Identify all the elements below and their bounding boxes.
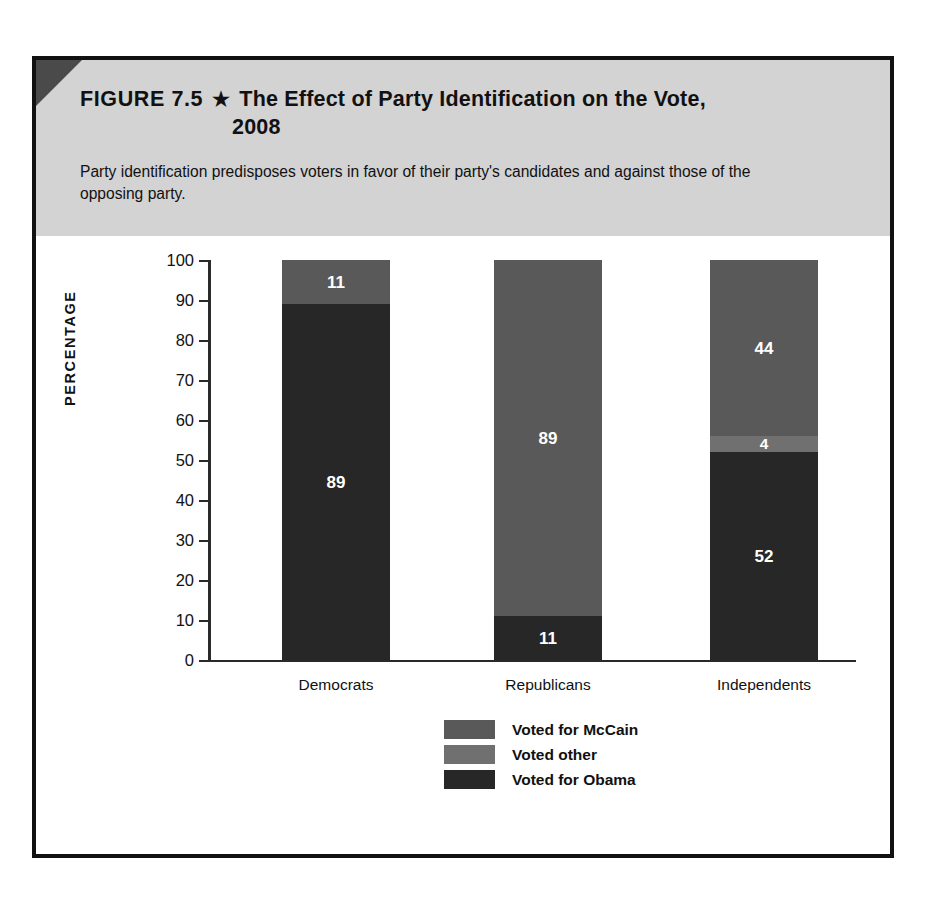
bar-segment[interactable]: 44 — [710, 260, 818, 436]
x-axis-category-label: Republicans — [505, 676, 590, 694]
x-axis-category-label: Democrats — [299, 676, 374, 694]
y-axis-tick-label: 60 — [176, 411, 194, 430]
chart-plot-region: PERCENTAGE 0102030405060708090100 1189De… — [36, 236, 890, 854]
y-axis-tick — [199, 500, 210, 502]
figure-title-line1: The Effect of Party Identification on th… — [239, 87, 706, 111]
stacked-bar[interactable]: 44452 — [710, 260, 818, 660]
legend-swatch — [444, 720, 495, 739]
legend-swatch — [444, 745, 495, 764]
figure-number: FIGURE 7.5 — [80, 87, 203, 111]
legend-item[interactable]: Voted for McCain — [444, 720, 638, 739]
figure-title-line2: 2008 — [232, 114, 850, 142]
legend-label: Voted for McCain — [512, 721, 638, 739]
bar-segment[interactable]: 4 — [710, 436, 818, 452]
y-axis-tick-label: 0 — [185, 651, 194, 670]
bar-segment-value: 11 — [327, 274, 345, 291]
y-axis-tick — [199, 460, 210, 462]
bar-segment-value: 89 — [539, 430, 558, 447]
legend-label: Voted for Obama — [512, 771, 636, 789]
bar-segment-value: 4 — [760, 436, 769, 452]
y-axis-tick-label: 40 — [176, 491, 194, 510]
y-axis-tick — [199, 620, 210, 622]
y-axis-tick — [199, 660, 210, 662]
y-axis-title: PERCENTAGE — [62, 290, 78, 406]
bar-segment-value: 11 — [539, 630, 557, 647]
stacked-bar[interactable]: 8911 — [494, 260, 602, 660]
y-axis-tick — [199, 380, 210, 382]
legend-item[interactable]: Voted for Obama — [444, 770, 638, 789]
legend-label: Voted other — [512, 746, 597, 764]
bar-segment[interactable]: 52 — [710, 452, 818, 660]
y-axis-tick-label: 90 — [176, 291, 194, 310]
figure-frame: FIGURE 7.5★The Effect of Party Identific… — [32, 56, 894, 858]
y-axis-tick — [199, 260, 210, 262]
star-icon: ★ — [203, 86, 239, 112]
page-title: FIGURE 7.5★The Effect of Party Identific… — [80, 86, 850, 142]
bar-segment[interactable]: 11 — [494, 616, 602, 660]
y-axis-tick-label: 10 — [176, 611, 194, 630]
y-axis-tick — [199, 300, 210, 302]
y-axis-tick-label: 70 — [176, 371, 194, 390]
bar-segment-value: 52 — [755, 548, 774, 565]
chart-axes: 0102030405060708090100 1189Democrats8911… — [208, 260, 856, 660]
corner-fold-icon — [36, 60, 82, 106]
bar-segment[interactable]: 11 — [282, 260, 390, 304]
legend-item[interactable]: Voted other — [444, 745, 638, 764]
y-axis-tick — [199, 340, 210, 342]
bar-group[interactable]: 44452Independents — [710, 260, 818, 660]
y-axis-tick-label: 50 — [176, 451, 194, 470]
y-axis-tick-label: 80 — [176, 331, 194, 350]
y-axis-tick-label: 100 — [166, 251, 194, 270]
y-axis-tick-label: 20 — [176, 571, 194, 590]
y-axis-tick — [199, 580, 210, 582]
bar-group[interactable]: 8911Republicans — [494, 260, 602, 660]
bar-segment-value: 44 — [755, 340, 774, 357]
legend-swatch — [444, 770, 495, 789]
bar-segment[interactable]: 89 — [282, 304, 390, 660]
stacked-bar[interactable]: 1189 — [282, 260, 390, 660]
figure-header: FIGURE 7.5★The Effect of Party Identific… — [36, 60, 890, 236]
bar-segment[interactable]: 89 — [494, 260, 602, 616]
y-axis-tick-label: 30 — [176, 531, 194, 550]
x-axis-category-label: Independents — [717, 676, 811, 694]
figure-subtitle: Party identification predisposes voters … — [80, 161, 780, 205]
y-axis-tick — [199, 540, 210, 542]
bar-group[interactable]: 1189Democrats — [282, 260, 390, 660]
y-axis-tick — [199, 420, 210, 422]
chart-legend: Voted for McCainVoted otherVoted for Oba… — [444, 720, 638, 795]
bar-segment-value: 89 — [327, 474, 346, 491]
